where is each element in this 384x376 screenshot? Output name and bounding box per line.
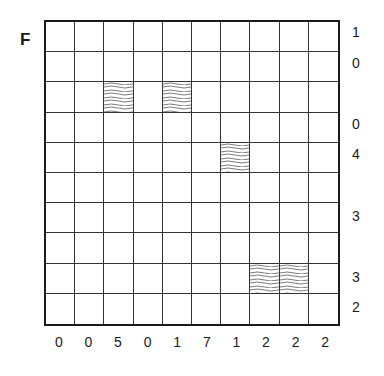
grid-cell[interactable] bbox=[163, 22, 192, 52]
grid-cell[interactable] bbox=[309, 113, 338, 143]
grid-cell[interactable] bbox=[280, 173, 309, 203]
grid-cell[interactable] bbox=[46, 22, 75, 52]
grid-cell[interactable] bbox=[221, 233, 250, 263]
grid-cell[interactable] bbox=[134, 203, 163, 233]
grid-cell[interactable] bbox=[134, 22, 163, 52]
grid-cell[interactable] bbox=[192, 264, 221, 294]
grid-cell[interactable] bbox=[309, 294, 338, 324]
grid-cell[interactable] bbox=[104, 143, 133, 173]
grid-cell[interactable] bbox=[134, 143, 163, 173]
grid-cell[interactable] bbox=[104, 233, 133, 263]
grid-cell[interactable] bbox=[75, 203, 104, 233]
grid-cell[interactable] bbox=[163, 52, 192, 82]
grid-cell[interactable] bbox=[250, 143, 279, 173]
grid-cell[interactable] bbox=[250, 82, 279, 112]
water-cell[interactable] bbox=[280, 264, 309, 294]
grid-cell[interactable] bbox=[192, 294, 221, 324]
grid-cell[interactable] bbox=[75, 264, 104, 294]
grid-cell[interactable] bbox=[104, 173, 133, 203]
grid-cell[interactable] bbox=[134, 173, 163, 203]
grid-cell[interactable] bbox=[192, 173, 221, 203]
grid-cell[interactable] bbox=[221, 264, 250, 294]
grid-cell[interactable] bbox=[104, 294, 133, 324]
grid-cell[interactable] bbox=[280, 233, 309, 263]
grid-cell[interactable] bbox=[134, 113, 163, 143]
grid-cell[interactable] bbox=[46, 113, 75, 143]
grid-cell[interactable] bbox=[221, 113, 250, 143]
grid-cell[interactable] bbox=[104, 203, 133, 233]
grid-cell[interactable] bbox=[221, 173, 250, 203]
grid-cell[interactable] bbox=[75, 233, 104, 263]
grid-cell[interactable] bbox=[75, 52, 104, 82]
grid-cell[interactable] bbox=[134, 264, 163, 294]
grid-cell[interactable] bbox=[134, 82, 163, 112]
water-cell[interactable] bbox=[250, 264, 279, 294]
grid-cell[interactable] bbox=[163, 113, 192, 143]
water-cell[interactable] bbox=[104, 82, 133, 112]
grid-cell[interactable] bbox=[46, 173, 75, 203]
grid-cell[interactable] bbox=[104, 52, 133, 82]
grid-cell[interactable] bbox=[163, 264, 192, 294]
grid-cell[interactable] bbox=[280, 52, 309, 82]
grid-cell[interactable] bbox=[134, 294, 163, 324]
grid-cell[interactable] bbox=[250, 22, 279, 52]
grid-cell[interactable] bbox=[250, 233, 279, 263]
grid-cell[interactable] bbox=[192, 203, 221, 233]
grid-cell[interactable] bbox=[250, 113, 279, 143]
grid-cell[interactable] bbox=[250, 294, 279, 324]
grid-cell[interactable] bbox=[192, 233, 221, 263]
grid-cell[interactable] bbox=[134, 233, 163, 263]
grid-cell[interactable] bbox=[309, 203, 338, 233]
grid-cell[interactable] bbox=[104, 113, 133, 143]
grid-cell[interactable] bbox=[309, 264, 338, 294]
grid-cell[interactable] bbox=[46, 294, 75, 324]
grid-cell[interactable] bbox=[46, 203, 75, 233]
grid-cell[interactable] bbox=[309, 82, 338, 112]
grid-cell[interactable] bbox=[163, 233, 192, 263]
grid-cell[interactable] bbox=[104, 22, 133, 52]
grid-cell[interactable] bbox=[163, 173, 192, 203]
grid-cell[interactable] bbox=[104, 264, 133, 294]
grid-cell[interactable] bbox=[280, 203, 309, 233]
grid-cell[interactable] bbox=[163, 203, 192, 233]
grid-cell[interactable] bbox=[163, 294, 192, 324]
grid-cell[interactable] bbox=[75, 143, 104, 173]
grid-cell[interactable] bbox=[309, 173, 338, 203]
grid-cell[interactable] bbox=[280, 294, 309, 324]
grid-cell[interactable] bbox=[75, 113, 104, 143]
grid-cell[interactable] bbox=[250, 173, 279, 203]
grid-cell[interactable] bbox=[309, 233, 338, 263]
grid-cell[interactable] bbox=[309, 143, 338, 173]
grid-cell[interactable] bbox=[75, 82, 104, 112]
grid-cell[interactable] bbox=[46, 52, 75, 82]
grid-cell[interactable] bbox=[309, 52, 338, 82]
grid-cell[interactable] bbox=[280, 22, 309, 52]
grid-cell[interactable] bbox=[134, 52, 163, 82]
grid-cell[interactable] bbox=[75, 22, 104, 52]
grid-cell[interactable] bbox=[250, 52, 279, 82]
grid-cell[interactable] bbox=[192, 22, 221, 52]
grid-cell[interactable] bbox=[46, 233, 75, 263]
grid-cell[interactable] bbox=[192, 143, 221, 173]
grid-cell[interactable] bbox=[280, 82, 309, 112]
grid-cell[interactable] bbox=[192, 82, 221, 112]
grid-cell[interactable] bbox=[46, 264, 75, 294]
grid-cell[interactable] bbox=[163, 143, 192, 173]
grid-cell[interactable] bbox=[75, 173, 104, 203]
grid-cell[interactable] bbox=[221, 52, 250, 82]
grid-cell[interactable] bbox=[250, 203, 279, 233]
grid-cell[interactable] bbox=[75, 294, 104, 324]
grid-cell[interactable] bbox=[46, 143, 75, 173]
grid-cell[interactable] bbox=[192, 113, 221, 143]
grid-cell[interactable] bbox=[221, 294, 250, 324]
grid-cell[interactable] bbox=[309, 22, 338, 52]
grid-cell[interactable] bbox=[192, 52, 221, 82]
water-cell[interactable] bbox=[163, 82, 192, 112]
grid-cell[interactable] bbox=[280, 143, 309, 173]
water-cell[interactable] bbox=[221, 143, 250, 173]
grid-cell[interactable] bbox=[46, 82, 75, 112]
grid-cell[interactable] bbox=[221, 82, 250, 112]
grid-cell[interactable] bbox=[280, 113, 309, 143]
grid-cell[interactable] bbox=[221, 22, 250, 52]
grid-cell[interactable] bbox=[221, 203, 250, 233]
